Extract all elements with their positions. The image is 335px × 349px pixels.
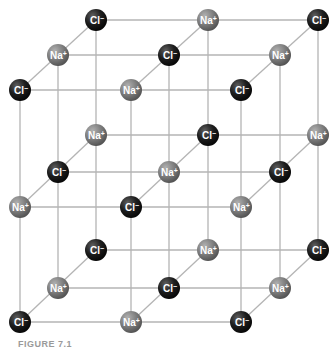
chloride-ion: Cl− xyxy=(9,79,31,101)
chloride-ion: Cl− xyxy=(120,196,142,218)
sodium-ion: Na+ xyxy=(47,44,69,66)
chloride-ion: Cl− xyxy=(158,277,180,299)
chloride-ion: Cl− xyxy=(269,161,291,183)
figure-caption: FIGURE 7.1 xyxy=(18,339,72,349)
sodium-ion: Na+ xyxy=(158,161,180,183)
sodium-ion: Na+ xyxy=(269,277,291,299)
sodium-ion: Na+ xyxy=(197,9,219,31)
sodium-ion: Na+ xyxy=(120,311,142,333)
sodium-ion: Na+ xyxy=(197,239,219,261)
chloride-ion: Cl− xyxy=(307,9,329,31)
chloride-ion: Cl− xyxy=(197,124,219,146)
ion-spheres: Cl−Na+Cl−Na+Cl−Na+Cl−Na+Cl−Na+Cl−Na+Cl−N… xyxy=(9,9,329,333)
sodium-ion: Na+ xyxy=(269,44,291,66)
sodium-ion: Na+ xyxy=(230,196,252,218)
chloride-ion: Cl− xyxy=(85,239,107,261)
chloride-ion: Cl− xyxy=(9,311,31,333)
sodium-ion: Na+ xyxy=(47,277,69,299)
chloride-ion: Cl− xyxy=(85,9,107,31)
sodium-ion: Na+ xyxy=(85,124,107,146)
sodium-ion: Na+ xyxy=(307,124,329,146)
chloride-ion: Cl− xyxy=(230,79,252,101)
sodium-ion: Na+ xyxy=(120,79,142,101)
chloride-ion: Cl− xyxy=(158,44,180,66)
chloride-ion: Cl− xyxy=(47,161,69,183)
sodium-ion: Na+ xyxy=(9,196,31,218)
chloride-ion: Cl− xyxy=(307,239,329,261)
chloride-ion: Cl− xyxy=(230,311,252,333)
